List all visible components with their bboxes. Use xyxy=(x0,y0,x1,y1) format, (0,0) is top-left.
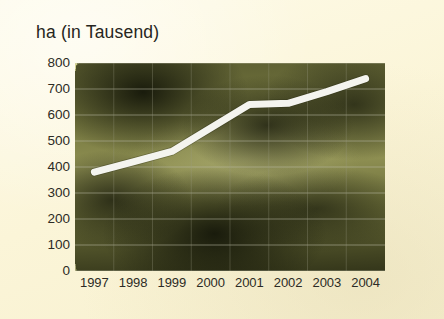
x-axis-tick-2004: 2004 xyxy=(343,276,389,289)
y-axis-tick-100: 100 xyxy=(30,238,70,252)
plot-area xyxy=(75,63,385,271)
y-axis-tick-labels: 8007006005004003002001000 xyxy=(28,63,70,271)
series-line-anbauflaeche xyxy=(94,79,365,173)
y-axis-tick-800: 800 xyxy=(30,56,70,70)
y-axis-tick-700: 700 xyxy=(30,82,70,96)
y-axis-tick-400: 400 xyxy=(30,160,70,174)
chart-title: ha (in Tausend) xyxy=(36,22,159,43)
y-axis-tick-300: 300 xyxy=(30,186,70,200)
y-axis-tick-200: 200 xyxy=(30,212,70,226)
data-series-line xyxy=(75,63,385,271)
y-axis-tick-600: 600 xyxy=(30,108,70,122)
chart-figure: ha (in Tausend) 800700600500400300200100… xyxy=(0,0,444,319)
y-axis-tick-500: 500 xyxy=(30,134,70,148)
x-axis-tick-labels: 19971998199920002001200220032004 xyxy=(75,276,385,296)
y-axis-tick-0: 0 xyxy=(30,264,70,278)
